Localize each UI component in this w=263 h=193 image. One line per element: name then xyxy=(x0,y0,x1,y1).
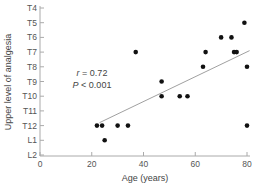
data-point xyxy=(201,65,206,70)
scatter-chart: T4T5T6T7T8T9T10T11T12L1L2 020406080 r = … xyxy=(0,0,263,193)
y-tick-label: T5 xyxy=(27,18,37,28)
data-point xyxy=(133,50,138,55)
data-point xyxy=(126,123,131,128)
data-point xyxy=(159,94,164,99)
data-point xyxy=(177,94,182,99)
regression-line xyxy=(100,51,250,123)
data-point xyxy=(185,94,190,99)
x-tick-label: 0 xyxy=(38,159,43,169)
y-tick-label: T12 xyxy=(22,121,37,131)
data-point xyxy=(102,138,107,143)
data-point xyxy=(245,65,250,70)
y-tick-label: T8 xyxy=(27,62,37,72)
data-point xyxy=(115,123,120,128)
data-point xyxy=(245,123,250,128)
data-point xyxy=(234,50,239,55)
y-tick-label: T11 xyxy=(23,106,37,116)
x-axis-title: Age (years) xyxy=(122,173,169,183)
y-tick-label: T9 xyxy=(27,77,37,87)
y-ticks: T4T5T6T7T8T9T10T11T12L1L2 xyxy=(22,3,44,160)
x-tick-label: 40 xyxy=(139,159,149,169)
p-annotation: P < 0.001 xyxy=(73,80,112,90)
data-point xyxy=(95,123,100,128)
r-annotation: r = 0.72 xyxy=(77,68,108,78)
y-tick-label: T6 xyxy=(27,32,37,42)
x-tick-label: 60 xyxy=(191,159,201,169)
y-tick-label: L1 xyxy=(28,135,38,145)
data-point xyxy=(159,79,164,84)
y-tick-label: T10 xyxy=(22,91,37,101)
y-tick-label: T4 xyxy=(27,3,37,13)
data-point xyxy=(229,35,234,40)
y-axis-title: Upper level of analgesia xyxy=(3,34,13,131)
data-points xyxy=(95,20,250,142)
y-tick-label: T7 xyxy=(27,47,37,57)
data-point xyxy=(219,35,224,40)
axes xyxy=(40,6,250,156)
x-tick-label: 80 xyxy=(242,159,252,169)
data-point xyxy=(242,20,247,25)
x-ticks: 020406080 xyxy=(38,152,252,169)
x-tick-label: 20 xyxy=(87,159,97,169)
data-point xyxy=(100,123,105,128)
data-point xyxy=(203,50,208,55)
y-tick-label: L2 xyxy=(28,150,38,160)
